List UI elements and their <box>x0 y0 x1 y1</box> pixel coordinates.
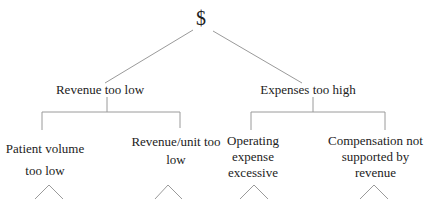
label-line: excessive <box>218 165 288 181</box>
node-compensation-not-supported: Compensation not supported by revenue <box>318 133 433 181</box>
label-line: supported by <box>318 149 433 165</box>
label-line: expense <box>218 149 288 165</box>
root-node: $ <box>186 7 216 29</box>
node-revenue-too-low: Revenue too low <box>40 81 160 99</box>
node-operating-expense-excessive: Operating expense excessive <box>218 133 288 181</box>
collapsed-subtree-icon <box>240 185 268 199</box>
connector-root-revenue <box>105 30 193 83</box>
label-line: Operating <box>218 133 288 149</box>
label-line: Revenue/unit too <box>121 133 231 151</box>
connector-root-expenses <box>213 31 302 83</box>
label-line: Compensation not <box>318 133 433 149</box>
label-line: too low <box>0 160 95 182</box>
label-line: Patient volume <box>0 138 95 160</box>
label-line: low <box>121 151 231 169</box>
label-line: revenue <box>318 165 433 181</box>
node-revenue-unit-too-low: Revenue/unit too low <box>121 133 231 169</box>
node-expenses-too-high: Expenses too high <box>248 81 368 99</box>
collapsed-subtree-icon <box>155 185 182 199</box>
node-patient-volume-too-low: Patient volume too low <box>0 138 95 182</box>
collapsed-subtree-icon <box>360 185 388 199</box>
collapsed-subtree-icon <box>35 185 63 199</box>
